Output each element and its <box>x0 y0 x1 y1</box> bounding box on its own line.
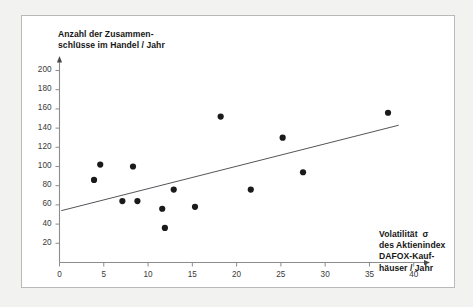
x-tick-label: 10 <box>138 270 158 279</box>
x-tick-label: 30 <box>315 270 335 279</box>
y-tick-label: 200 <box>28 65 52 74</box>
x-axis-tick-marks <box>60 263 414 267</box>
data-point <box>280 135 286 141</box>
x-tick-label: 5 <box>94 270 114 279</box>
y-tick-label: 140 <box>28 123 52 132</box>
data-point <box>134 198 140 204</box>
x-tick-label: 25 <box>271 270 291 279</box>
y-tick-label: 40 <box>28 219 52 228</box>
chart-frame: Anzahl der Zusammen- schlüsse im Handel … <box>21 15 455 288</box>
y-tick-label: 180 <box>28 84 52 93</box>
data-point <box>171 186 177 192</box>
axis-lines <box>57 56 430 265</box>
y-tick-label: 100 <box>28 161 52 170</box>
data-point <box>159 206 165 212</box>
x-tick-label: 15 <box>182 270 202 279</box>
y-tick-label: 20 <box>28 238 52 247</box>
x-tick-label: 20 <box>227 270 247 279</box>
data-points <box>91 110 391 231</box>
y-tick-label: 60 <box>28 199 52 208</box>
data-point <box>300 169 306 175</box>
data-point <box>119 198 125 204</box>
data-point <box>97 161 103 167</box>
y-tick-label: 80 <box>28 180 52 189</box>
x-tick-label: 40 <box>404 270 424 279</box>
y-axis-tick-marks <box>56 71 60 244</box>
data-point <box>91 177 97 183</box>
data-point <box>248 186 254 192</box>
data-point <box>162 225 168 231</box>
x-tick-label: 0 <box>50 270 70 279</box>
x-tick-label: 35 <box>359 270 379 279</box>
data-point <box>130 163 136 169</box>
y-tick-label: 160 <box>28 103 52 112</box>
y-tick-label: 120 <box>28 142 52 151</box>
scatter-plot-canvas <box>22 16 456 289</box>
data-point <box>192 204 198 210</box>
trend-line <box>61 125 398 210</box>
data-point <box>385 110 391 116</box>
data-point <box>218 113 224 119</box>
chart-page: Anzahl der Zusammen- schlüsse im Handel … <box>0 0 473 307</box>
